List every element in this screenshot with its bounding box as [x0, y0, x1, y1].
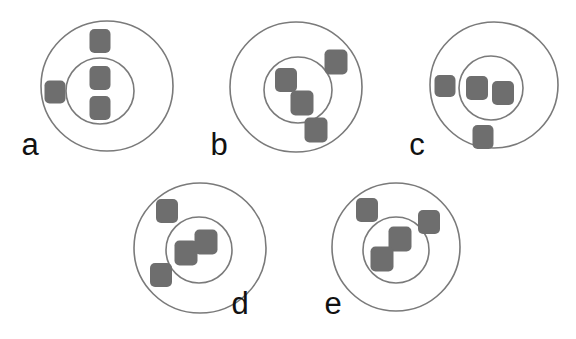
marker-a-2 — [90, 66, 111, 90]
panel-e-label: e — [324, 286, 341, 321]
nested-circles-diagram: abcde — [0, 0, 576, 339]
marker-e-2 — [418, 210, 440, 234]
marker-b-3 — [325, 50, 348, 75]
panel-c-label: c — [409, 127, 425, 162]
marker-c-1 — [466, 76, 488, 100]
marker-a-4 — [45, 81, 66, 104]
marker-d-4 — [195, 230, 218, 255]
marker-d-2 — [150, 263, 172, 287]
marker-b-4 — [305, 118, 328, 143]
marker-b-1 — [275, 68, 297, 92]
marker-c-4 — [473, 125, 494, 149]
figure-root: abcde — [0, 0, 576, 339]
marker-d-1 — [156, 199, 178, 223]
marker-a-3 — [90, 96, 111, 120]
marker-d-3 — [175, 241, 198, 266]
marker-e-1 — [356, 198, 378, 222]
panel-a-label: a — [21, 127, 39, 162]
marker-e-3 — [389, 227, 412, 252]
marker-c-3 — [435, 75, 456, 97]
panel-b-label: b — [210, 127, 227, 162]
panel-d-label: d — [231, 286, 248, 321]
marker-c-2 — [492, 81, 514, 105]
marker-b-2 — [291, 91, 314, 116]
marker-a-1 — [90, 29, 111, 53]
marker-e-4 — [371, 247, 394, 272]
